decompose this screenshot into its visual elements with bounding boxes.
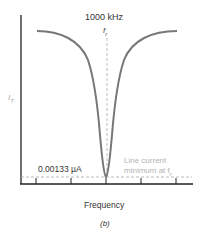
resonant-frequency-label: fr	[103, 26, 107, 37]
x-ticks	[36, 178, 176, 184]
chart-title: 1000 kHz	[85, 12, 123, 22]
minimum-annotation: Line currentminimum at fr	[124, 156, 172, 179]
y-axis-label: IT	[8, 93, 14, 104]
x-axis-label: Frequency	[84, 200, 124, 210]
panel-label: (b)	[100, 219, 110, 228]
resonance-plot	[0, 0, 202, 233]
minimum-value-label: 0.00133 µA	[38, 164, 82, 174]
